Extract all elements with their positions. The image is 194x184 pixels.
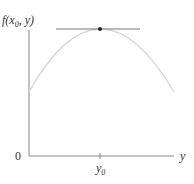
maximum-point: [98, 27, 102, 31]
origin-label: 0: [15, 149, 21, 163]
graph: f(x0, y) 0 y y0: [0, 0, 194, 184]
function-curve: [29, 29, 174, 92]
tick-label-y0: y0: [95, 161, 105, 177]
x-axis-label: y: [179, 149, 186, 163]
y-axis-label: f(x0, y): [2, 13, 34, 29]
